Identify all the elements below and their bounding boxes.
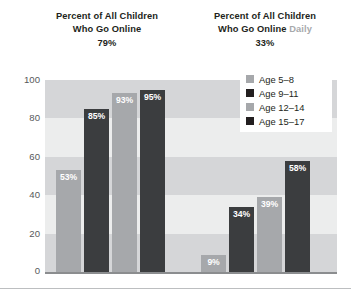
bar-value-label: 95% — [140, 92, 165, 102]
bar-value-label: 85% — [84, 111, 109, 121]
bar-right-age-15-17: 58% — [285, 161, 310, 272]
legend-item-label: Age 9–11 — [259, 88, 298, 99]
bar-left-age-15-17: 95% — [140, 90, 165, 272]
axis-baseline — [45, 272, 337, 274]
y-tick-40: 40 — [4, 189, 40, 200]
bar-right-age-9-11: 34% — [229, 207, 254, 272]
bar-value-label: 93% — [112, 95, 137, 105]
bar-value-label: 39% — [257, 199, 282, 209]
title-right-line1: Percent of All Children — [190, 10, 340, 23]
y-tick-20: 20 — [4, 228, 40, 239]
title-left-group: Percent of All Children Who Go Online 79… — [22, 10, 192, 50]
bar-right-age-12-14: 39% — [257, 197, 282, 272]
legend-item-label: Age 12–14 — [259, 102, 304, 113]
legend-swatch-icon — [246, 75, 254, 83]
bar-left-age-5-8: 53% — [56, 170, 81, 272]
legend-item-age-15-17: Age 15–17 — [240, 114, 332, 128]
chart-titles: Percent of All Children Who Go Online 79… — [0, 0, 351, 62]
y-tick-60: 60 — [4, 151, 40, 162]
title-left-line1: Percent of All Children — [22, 10, 192, 23]
title-right-line2: Who Go Online — [218, 24, 286, 34]
bar-value-label: 9% — [201, 257, 226, 267]
legend-item-age-12-14: Age 12–14 — [240, 100, 332, 114]
legend-item-age-5-8: Age 5–8 — [240, 72, 332, 86]
bar-right-age-5-8: 9% — [201, 255, 226, 272]
bar-value-label: 34% — [229, 209, 254, 219]
chart-screenshot: Percent of All Children Who Go Online 79… — [0, 0, 351, 291]
y-tick-80: 80 — [4, 112, 40, 123]
y-tick-100: 100 — [4, 74, 40, 85]
title-left-percent: 79% — [22, 37, 192, 50]
title-right-percent: 33% — [190, 37, 340, 50]
footer-divider — [0, 288, 351, 289]
legend-item-label: Age 15–17 — [259, 116, 304, 127]
y-tick-0: 0 — [4, 265, 40, 276]
legend-item-age-9-11: Age 9–11 — [240, 86, 332, 100]
legend-swatch-icon — [246, 89, 254, 97]
bar-left-age-12-14: 93% — [112, 93, 137, 272]
title-left-line2: Who Go Online — [22, 23, 192, 36]
chart-legend: Age 5–8 Age 9–11 Age 12–14 Age 15–17 — [240, 68, 332, 132]
title-right-group: Percent of All Children Who Go Online Da… — [190, 10, 340, 50]
legend-swatch-icon — [246, 103, 254, 111]
bar-value-label: 53% — [56, 172, 81, 182]
title-right-line2-wrap: Who Go Online Daily — [190, 23, 340, 36]
legend-swatch-icon — [246, 117, 254, 125]
bar-left-age-9-11: 85% — [84, 109, 109, 272]
legend-item-label: Age 5–8 — [259, 74, 294, 85]
bar-value-label: 58% — [285, 163, 310, 173]
title-right-daily: Daily — [289, 24, 312, 34]
